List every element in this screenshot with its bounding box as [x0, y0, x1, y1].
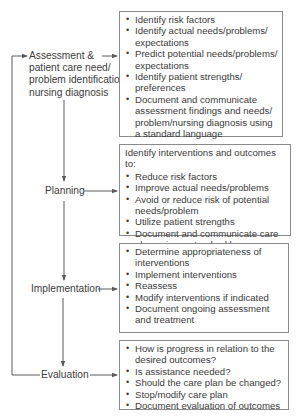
- assessment-label-line-3: problem identification/: [29, 74, 128, 86]
- list-item: Predict potential needs/problems/ expect…: [125, 48, 278, 71]
- list-item: Document and communicate assessment find…: [125, 94, 278, 140]
- list-item: Should the care plan be changed?: [125, 377, 284, 388]
- list-item: Document evaluation of outcomes: [125, 400, 284, 411]
- stage-label-implementation: Implementation: [31, 283, 101, 295]
- list-item: How is progress in relation to the desir…: [125, 343, 284, 366]
- assessment-label-line-4: nursing diagnosis: [29, 87, 128, 99]
- assessment-list: Identify risk factors Identify actual ne…: [125, 14, 278, 139]
- evaluation-box: How is progress in relation to the desir…: [119, 340, 289, 410]
- list-item: Identify patient strengths/ preferences: [125, 71, 278, 94]
- list-item: Identify risk factors: [125, 14, 278, 25]
- feedback-loop-line: [12, 56, 40, 375]
- list-item: Determine appropriateness of interventio…: [125, 246, 284, 269]
- stage-label-assessment: Assessment & patient care need/ problem …: [29, 50, 128, 99]
- list-item: Avoid or reduce risk of potential needs/…: [125, 194, 286, 217]
- list-item: Modify interventions if indicated: [125, 292, 284, 303]
- list-item: Document ongoing assessment and treatmen…: [125, 303, 284, 326]
- assessment-label-line-2: patient care need/: [29, 62, 128, 74]
- assessment-box: Identify risk factors Identify actual ne…: [119, 11, 283, 137]
- list-item: Reduce risk factors: [125, 171, 286, 182]
- list-item: Stop/modify care plan: [125, 389, 284, 400]
- evaluation-list: How is progress in relation to the desir…: [125, 343, 284, 411]
- stage-label-planning: Planning: [45, 185, 85, 197]
- planning-list: Reduce risk factors Improve actual needs…: [125, 171, 286, 251]
- list-item: Implement interventions: [125, 269, 284, 280]
- list-item: Reassess: [125, 280, 284, 291]
- list-item: Improve actual needs/problems: [125, 182, 286, 193]
- planning-intro: Identify interventions and outcomes to:: [125, 147, 286, 170]
- assessment-label-line-1: Assessment &: [29, 50, 128, 62]
- implementation-box: Determine appropriateness of interventio…: [119, 243, 289, 333]
- list-item: Utilize patient strengths: [125, 216, 286, 227]
- planning-box: Identify interventions and outcomes to: …: [119, 144, 291, 236]
- stage-label-evaluation: Evaluation: [41, 369, 89, 381]
- list-item: Is assistance needed?: [125, 366, 284, 377]
- list-item: Identify actual needs/problems/ expectat…: [125, 25, 278, 48]
- implementation-list: Determine appropriateness of interventio…: [125, 246, 284, 326]
